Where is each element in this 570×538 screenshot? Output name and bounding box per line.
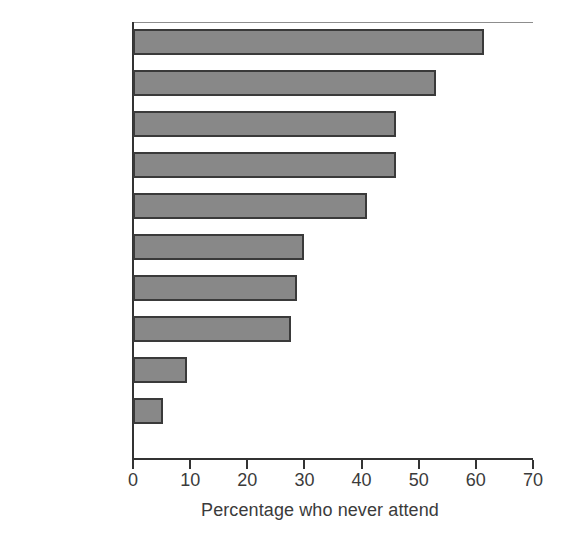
bar-row: France xyxy=(133,63,533,104)
bar-row: Spain xyxy=(133,186,533,227)
x-axis-tick xyxy=(418,460,420,469)
x-axis-tick xyxy=(475,460,477,469)
x-axis-tick xyxy=(303,460,305,469)
plot-area: Czech Rep.FranceUKNetherlandsSpainSweden… xyxy=(133,22,533,457)
x-axis-tick-label: 30 xyxy=(284,470,324,491)
x-axis-line xyxy=(132,458,533,460)
bar xyxy=(133,275,297,301)
x-axis-tick xyxy=(189,460,191,469)
x-axis-tick xyxy=(246,460,248,469)
x-axis-tick-label: 70 xyxy=(513,470,553,491)
bar xyxy=(133,70,436,96)
bar-row: Poland xyxy=(133,391,533,432)
bar-row: UK xyxy=(133,104,533,145)
bar xyxy=(133,193,367,219)
bar-row: Germany xyxy=(133,309,533,350)
x-axis-title: Percentage who never attend xyxy=(0,500,570,521)
x-axis-tick-label: 20 xyxy=(227,470,267,491)
x-axis-tick xyxy=(532,460,534,469)
bar-row: Italy xyxy=(133,350,533,391)
x-axis-tick-label: 0 xyxy=(113,470,153,491)
bar xyxy=(133,111,396,137)
x-axis-title-text: Percentage who never attend xyxy=(201,500,439,521)
x-axis-tick-label: 10 xyxy=(170,470,210,491)
bar-row: Sweden xyxy=(133,227,533,268)
x-axis-tick xyxy=(361,460,363,469)
bar xyxy=(133,152,396,178)
x-axis-tick xyxy=(132,460,134,469)
x-axis-tick-label: 50 xyxy=(399,470,439,491)
bar-row: EU-27 xyxy=(133,268,533,309)
bar-row: Netherlands xyxy=(133,145,533,186)
bar xyxy=(133,29,484,55)
x-axis-tick-label: 60 xyxy=(456,470,496,491)
bar xyxy=(133,316,291,342)
x-axis-tick-label: 40 xyxy=(342,470,382,491)
bar-row: Czech Rep. xyxy=(133,22,533,63)
bar xyxy=(133,398,163,424)
bar-chart: Czech Rep.FranceUKNetherlandsSpainSweden… xyxy=(0,0,570,538)
bar xyxy=(133,234,304,260)
bar xyxy=(133,357,187,383)
